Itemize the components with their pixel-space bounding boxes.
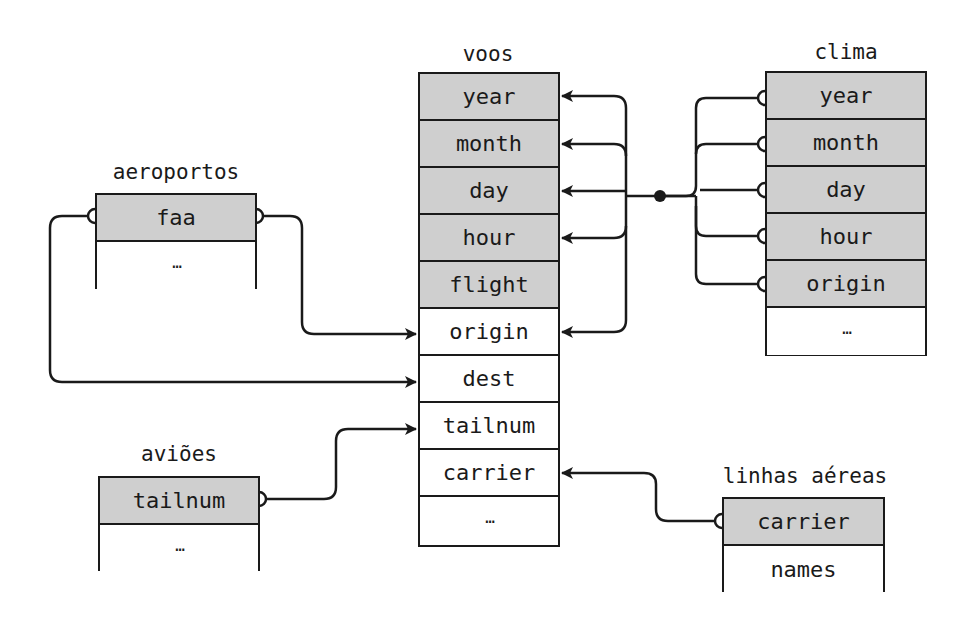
field-origin: origin [420,309,558,356]
table-title-clima: clima [765,40,927,64]
field-tailnum: tailnum [420,403,558,450]
link-tailnum [265,429,416,499]
table-avioes: tailnum … [98,476,260,571]
link-clima-origin [696,206,760,284]
table-voos: year month day hour flight origin dest t… [418,72,560,547]
field-faa: faa [97,195,255,242]
table-aeroportos: faa … [95,193,257,289]
connector-cap-icon [758,137,765,151]
link-faa-origin [262,216,416,334]
link-clima-hour [696,196,760,236]
field-hour: hour [420,215,558,262]
field-year: year [767,73,925,120]
link-carrier [562,473,716,521]
connector-cap-icon [715,514,722,528]
connector-cap-icon [259,492,266,506]
field-day: day [420,168,558,215]
connector-cap-icon [758,229,765,243]
field-more: … [97,242,255,289]
table-linhas-aereas: carrier names [722,497,885,592]
field-hour: hour [767,214,925,261]
table-title-voos: voos [416,42,560,66]
link-clima-month [696,144,760,154]
connector-cap-icon [758,277,765,291]
field-carrier: carrier [724,499,883,546]
link-voos-year [562,96,626,332]
field-names: names [724,546,883,593]
connector-cap-icon [758,183,765,197]
field-tailnum: tailnum [100,478,258,525]
field-flight: flight [420,262,558,309]
link-voos-hour [562,226,626,238]
field-dest: dest [420,356,558,403]
link-clima-year [660,98,760,196]
field-origin: origin [767,261,925,308]
table-title-linhas-aereas: linhas aéreas [700,464,910,488]
connector-cap-icon [256,209,263,223]
field-year: year [420,74,558,121]
junction-dot [654,190,666,202]
table-clima: year month day hour origin … [765,71,927,356]
field-more: … [100,525,258,572]
field-month: month [420,121,558,168]
field-carrier: carrier [420,450,558,497]
field-month: month [767,120,925,167]
connector-cap-icon [758,91,765,105]
field-more: … [767,308,925,355]
table-title-aeroportos: aeroportos [95,160,257,184]
connector-cap-icon [88,209,95,223]
link-voos-month [562,144,626,156]
field-more: … [420,497,558,544]
field-day: day [767,167,925,214]
table-title-avioes: aviões [98,442,260,466]
